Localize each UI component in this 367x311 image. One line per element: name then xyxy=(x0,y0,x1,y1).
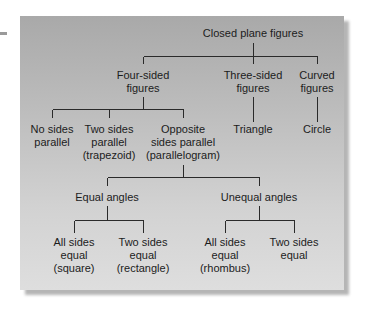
node-unequal-angles: Unequal angles xyxy=(221,191,297,204)
node-label: equal xyxy=(200,249,250,262)
node-label: figures xyxy=(299,82,334,95)
node-label: Unequal angles xyxy=(221,191,297,204)
node-label: Two sides xyxy=(83,123,136,136)
node-label: equal xyxy=(54,249,95,262)
node-label: figures xyxy=(117,82,170,95)
node-label: parallel xyxy=(31,136,74,149)
node-label: Two sides xyxy=(270,236,319,249)
node-label: Three-sided xyxy=(224,69,283,82)
node-label: No sides xyxy=(31,123,74,136)
node-label: Curved xyxy=(299,69,334,82)
node-trapezoid: Two sides parallel (trapezoid) xyxy=(83,123,136,162)
node-rhombus: All sides equal (rhombus) xyxy=(200,236,250,275)
node-circle: Circle xyxy=(303,123,331,136)
node-triangle: Triangle xyxy=(233,123,272,136)
node-label: (parallelogram) xyxy=(146,149,220,162)
node-four-sided-figures: Four-sided figures xyxy=(117,69,170,95)
node-closed-plane-figures: Closed plane figures xyxy=(203,27,303,40)
node-label: Triangle xyxy=(233,123,272,136)
node-curved-figures: Curved figures xyxy=(299,69,334,95)
node-label: figures xyxy=(224,82,283,95)
node-label: Circle xyxy=(303,123,331,136)
node-label: (square) xyxy=(54,262,95,275)
node-square: All sides equal (square) xyxy=(54,236,95,275)
node-parallelogram: Opposite sides parallel (parallelogram) xyxy=(146,123,220,162)
node-label: All sides xyxy=(200,236,250,249)
node-label: Opposite xyxy=(146,123,220,136)
node-label: equal xyxy=(117,249,170,262)
node-label: Two sides xyxy=(117,236,170,249)
node-rectangle: Two sides equal (rectangle) xyxy=(117,236,170,275)
node-label: Closed plane figures xyxy=(203,27,303,40)
node-three-sided-figures: Three-sided figures xyxy=(224,69,283,95)
node-two-sides-equal: Two sides equal xyxy=(270,236,319,262)
node-label: (rectangle) xyxy=(117,262,170,275)
node-label: equal xyxy=(270,249,319,262)
node-label: (rhombus) xyxy=(200,262,250,275)
node-label: sides parallel xyxy=(146,136,220,149)
node-label: (trapezoid) xyxy=(83,149,136,162)
node-no-sides-parallel: No sides parallel xyxy=(31,123,74,149)
node-label: Equal angles xyxy=(75,191,139,204)
node-label: All sides xyxy=(54,236,95,249)
node-label: Four-sided xyxy=(117,69,170,82)
node-equal-angles: Equal angles xyxy=(75,191,139,204)
node-label: parallel xyxy=(83,136,136,149)
